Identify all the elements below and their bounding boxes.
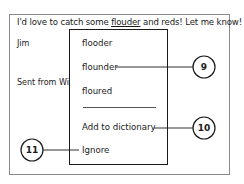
suggestion-flooder[interactable]: flooder — [82, 38, 112, 48]
suggestion-flounder[interactable]: flounder — [82, 62, 118, 72]
menu-separator — [83, 107, 156, 108]
add-to-dictionary-item[interactable]: Add to dictionary — [82, 122, 156, 132]
callout-10-label: 10 — [193, 117, 215, 139]
spellcheck-context-menu: flooder flounder floured Add to dictiona… — [69, 29, 168, 165]
sent-from-line: Sent from Wi — [17, 78, 69, 87]
suggestion-floured[interactable]: floured — [82, 86, 112, 96]
callout-9-label: 9 — [193, 56, 215, 78]
callout-11-label: 11 — [21, 139, 43, 161]
message-text-before: I'd love to catch some — [17, 17, 111, 27]
misspelled-word[interactable]: flouder — [111, 17, 140, 27]
signature-name: Jim — [17, 39, 29, 48]
ignore-item[interactable]: Ignore — [82, 145, 109, 155]
message-body-line[interactable]: I'd love to catch some flouder and reds!… — [17, 17, 242, 27]
message-text-after: and reds! Let me know! — [140, 17, 242, 27]
